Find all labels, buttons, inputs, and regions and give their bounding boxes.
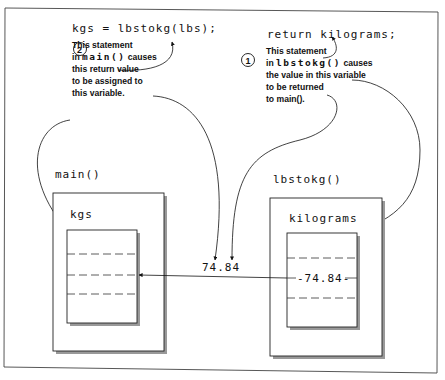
annotation-1-text-4: to be returned [266, 82, 324, 92]
annotation-1-text-1: This statement [266, 46, 327, 56]
kgs-memory-cell [67, 230, 140, 326]
diagram-canvas: kgs = lbstokg(lbs); return kilograms; 2 … [0, 0, 445, 380]
annotation-1-text-5: to main(). [266, 94, 305, 104]
main-function-label: main() [55, 168, 101, 181]
main-stack-frame: kgs [53, 193, 167, 354]
annotation-2-text-4: to be assigned to [72, 76, 143, 86]
annotation-1-text-2: in lbstokg() causes [266, 57, 373, 68]
kilograms-variable-label: kilograms [289, 212, 358, 225]
returned-value: 74.84 [202, 261, 240, 274]
annotation-2-text-3: this return value [72, 64, 139, 74]
kilograms-stored-value: -74.84- [297, 272, 350, 285]
lbstokg-function-label: lbstokg() [273, 173, 342, 186]
main-call-statement: kgs = lbstokg(lbs); [72, 22, 217, 35]
step-1-number: 1 [246, 56, 251, 66]
lbstokg-stack-frame: kilograms -74.84- [270, 198, 385, 359]
annotation-2-text-5: this variable. [72, 88, 125, 98]
annotation-2-text-1: This statement [72, 40, 133, 50]
kilograms-memory-cell: -74.84- [287, 233, 360, 330]
annotation-1-text-3: the value in this variable [266, 70, 366, 80]
return-statement: return kilograms; [267, 28, 397, 41]
annotation-2-text-2: in main() causes [72, 51, 157, 62]
kgs-variable-label: kgs [70, 208, 93, 221]
